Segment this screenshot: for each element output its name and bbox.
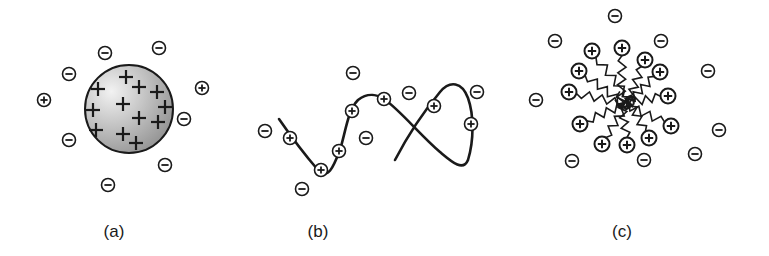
anion-icon [609,10,622,23]
anion-icon [259,125,272,138]
figure: (a) (b) (c) [0,0,769,256]
anion-icon [360,132,373,145]
panel-c-charged-micelle [530,10,726,168]
polymer-chain [279,84,473,173]
panel-b-charged-chain [259,67,484,196]
panel-label-b: (b) [308,222,329,242]
panel-label-c: (c) [612,222,632,242]
anion-icon [471,86,484,99]
head-group-icon [572,64,587,79]
diagram-canvas [0,0,769,256]
anion-icon [178,113,191,126]
anion-icon [99,47,112,60]
anion-icon [713,124,726,137]
head-group-icon [585,44,600,59]
anion-icon [566,155,579,168]
cation-icon [465,118,478,131]
anion-icon [153,42,166,55]
head-group-icon [642,131,657,146]
head-group-icon [615,41,630,56]
anion-icon [638,154,651,167]
head-group-icon [595,137,610,152]
anion-icon [530,94,543,107]
cation-icon [378,93,391,106]
head-group-icon [664,119,679,134]
anion-icon [159,159,172,172]
cation-icon [284,132,297,145]
panel-label-a: (a) [104,222,125,242]
anion-icon [403,87,416,100]
anion-icon [549,35,562,48]
head-group-icon [573,117,588,132]
head-group-icon [661,89,676,104]
cation-icon [333,145,346,158]
anion-icon [63,68,76,81]
cation-icon [428,100,441,113]
head-group-icon [653,65,668,80]
anion-icon [63,134,76,147]
anion-icon [296,183,309,196]
anion-icon [102,179,115,192]
anion-icon [347,67,360,80]
cation-icon [38,94,51,107]
head-group-icon [562,85,577,100]
anion-icon [689,148,702,161]
head-group-icon [638,53,653,68]
cation-icon [346,105,359,118]
panel-a-charged-sphere [38,42,209,192]
head-group-icon [620,138,635,153]
cation-icon [196,82,209,95]
cation-icon [315,164,328,177]
anion-icon [702,65,715,78]
anion-icon [655,35,668,48]
